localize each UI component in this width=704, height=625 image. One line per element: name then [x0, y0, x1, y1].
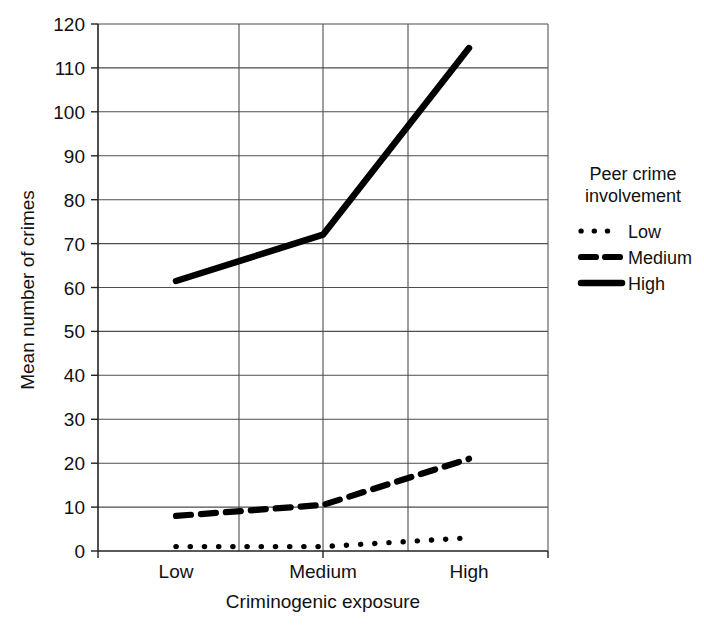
x-axis-title: Criminogenic exposure [226, 591, 420, 612]
chart-figure: 120 110 100 90 80 70 60 50 40 30 20 10 0… [0, 0, 704, 625]
x-axis-ticks [98, 551, 548, 558]
legend-label-high: High [628, 274, 665, 294]
ytick-label-90: 90 [64, 146, 85, 167]
ytick-label-110: 110 [55, 58, 85, 79]
legend-title-line-1: Peer crime [589, 164, 676, 184]
ytick-label-60: 60 [64, 278, 85, 299]
legend-title-line-2: involvement [585, 186, 681, 206]
xtick-label-low: Low [159, 561, 194, 582]
y-axis-ticks [91, 24, 98, 551]
ytick-label-20: 20 [64, 453, 85, 474]
ytick-label-10: 10 [64, 497, 85, 518]
y-axis-tick-labels: 120 110 100 90 80 70 60 50 40 30 20 10 0 [53, 14, 85, 562]
ytick-label-30: 30 [64, 409, 85, 430]
ytick-label-80: 80 [64, 190, 85, 211]
legend: Peer crime involvement Low Medium High [581, 164, 692, 294]
xtick-label-high: High [449, 561, 488, 582]
legend-label-low: Low [628, 222, 662, 242]
ytick-label-50: 50 [64, 321, 85, 342]
x-axis-tick-labels: Low Medium High [159, 561, 489, 582]
xtick-label-medium: Medium [289, 561, 357, 582]
ytick-label-40: 40 [64, 365, 85, 386]
ytick-label-120: 120 [53, 14, 85, 35]
ytick-label-0: 0 [74, 541, 85, 562]
ytick-label-70: 70 [64, 234, 85, 255]
legend-label-medium: Medium [628, 248, 692, 268]
y-axis-title: Mean number of crimes [17, 190, 38, 390]
line-chart: 120 110 100 90 80 70 60 50 40 30 20 10 0… [0, 0, 704, 625]
ytick-label-100: 100 [53, 102, 85, 123]
